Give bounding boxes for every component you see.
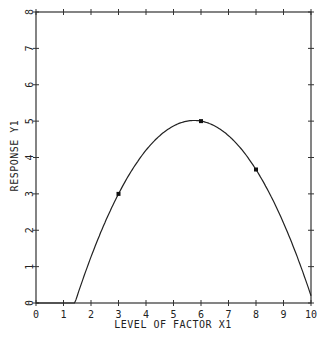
y-tick-label: 6: [24, 82, 35, 88]
y-axis-title: RESPONSE Y1: [9, 106, 20, 206]
data-point: [254, 168, 258, 172]
y-tick-label: 1: [24, 264, 35, 270]
data-point: [117, 192, 121, 196]
y-tick-label: 3: [24, 191, 35, 197]
plot-frame: [36, 12, 311, 303]
y-tick-label: 2: [24, 227, 35, 233]
y-tick-label: 0: [24, 300, 35, 306]
data-point: [199, 119, 203, 123]
x-axis-title: LEVEL OF FACTOR X1: [0, 319, 328, 330]
plot-area: 012345678910012345678: [24, 9, 317, 320]
y-tick-label: 8: [24, 9, 35, 15]
y-tick-label: 7: [24, 45, 35, 51]
y-tick-label: 4: [24, 154, 35, 160]
response-surface-chart: 012345678910012345678: [0, 0, 328, 339]
y-tick-label: 5: [24, 118, 35, 124]
fitted-curve: [36, 121, 311, 304]
